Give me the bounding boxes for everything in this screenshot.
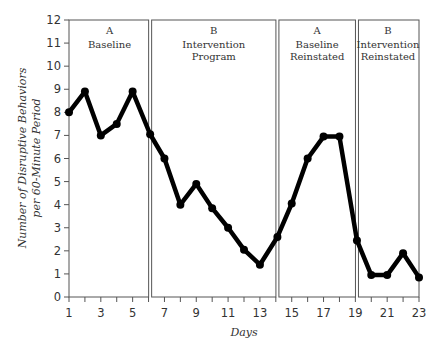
data-point xyxy=(129,88,137,96)
data-point xyxy=(113,120,121,128)
phase-name: Baseline xyxy=(296,39,339,50)
data-point xyxy=(208,204,216,212)
x-tick-label: 3 xyxy=(97,306,104,320)
x-axis: 1357911131517192123 xyxy=(65,297,426,320)
data-point xyxy=(383,271,391,279)
x-tick-label: 7 xyxy=(161,306,168,320)
y-tick-label: 5 xyxy=(54,175,61,189)
data-point xyxy=(273,233,281,241)
data-point xyxy=(399,249,407,257)
y-tick-label: 4 xyxy=(54,198,61,212)
chart: 0123456789101112 1357911131517192123 ABa… xyxy=(0,0,440,352)
data-point xyxy=(146,130,154,138)
x-tick-label: 19 xyxy=(348,306,363,320)
y-tick-label: 1 xyxy=(54,267,61,281)
y-tick-label: 9 xyxy=(54,82,61,96)
x-axis-title: Days xyxy=(229,326,258,339)
x-tick-label: 23 xyxy=(412,306,427,320)
data-point xyxy=(97,131,105,139)
phase-name: Reinstated xyxy=(290,51,345,62)
phase-name: Reinstated xyxy=(361,51,416,62)
data-point xyxy=(192,180,200,188)
y-tick-label: 11 xyxy=(46,36,61,50)
data-series xyxy=(65,88,423,282)
data-point xyxy=(160,155,168,163)
data-point xyxy=(304,155,312,163)
data-point xyxy=(256,261,264,269)
y-tick-label: 7 xyxy=(54,128,61,142)
phase-name: Intervention xyxy=(357,39,420,50)
data-point xyxy=(415,273,423,281)
x-tick-label: 17 xyxy=(316,306,331,320)
data-point xyxy=(65,108,73,116)
phase-code: A xyxy=(105,25,114,36)
data-point xyxy=(367,271,375,279)
y-axis-title-line-1: Number of Disruptive Behaviors xyxy=(16,67,29,249)
x-tick-label: 9 xyxy=(193,306,200,320)
y-tick-label: 3 xyxy=(54,221,61,235)
x-tick-label: 1 xyxy=(65,306,72,320)
y-axis: 0123456789101112 xyxy=(46,13,69,304)
data-point xyxy=(224,224,232,232)
y-axis-title-line-2: per 60-Minute Period xyxy=(30,98,43,217)
x-tick-label: 11 xyxy=(221,306,236,320)
data-point xyxy=(240,246,248,254)
y-tick-label: 0 xyxy=(54,290,61,304)
phase-frame xyxy=(69,20,149,297)
y-tick-label: 2 xyxy=(54,244,61,258)
y-tick-label: 6 xyxy=(54,152,61,166)
x-tick-label: 5 xyxy=(129,306,136,320)
data-point xyxy=(353,236,361,244)
phase-code: A xyxy=(313,25,322,36)
data-point xyxy=(335,133,343,141)
y-axis-title: Number of Disruptive Behaviors per 60-Mi… xyxy=(16,67,43,249)
data-point xyxy=(81,88,89,96)
y-tick-label: 8 xyxy=(54,105,61,119)
data-point xyxy=(176,201,184,209)
y-tick-label: 10 xyxy=(46,59,61,73)
x-tick-label: 21 xyxy=(380,306,395,320)
phase-name: Intervention xyxy=(182,39,245,50)
phase-labels: ABaselineBInterventionProgramABaselineRe… xyxy=(88,25,420,62)
x-tick-label: 13 xyxy=(253,306,268,320)
phase-name: Baseline xyxy=(88,39,131,50)
phase-name: Program xyxy=(192,51,237,62)
phase-code: B xyxy=(384,25,391,36)
y-tick-label: 12 xyxy=(46,13,61,27)
data-point xyxy=(320,133,328,141)
data-point xyxy=(288,200,296,208)
phase-code: B xyxy=(210,25,217,36)
x-tick-label: 15 xyxy=(284,306,299,320)
